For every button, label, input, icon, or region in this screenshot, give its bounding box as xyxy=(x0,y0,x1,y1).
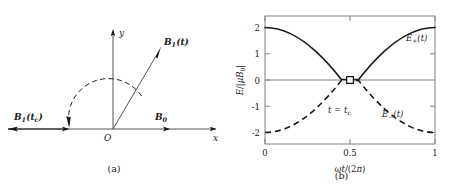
rotation-arc-arrowhead xyxy=(66,116,71,128)
y-axis-name: y xyxy=(118,28,125,38)
curve-E-minus xyxy=(265,80,435,133)
y-tick-label-1: 1 xyxy=(255,49,260,59)
figure-container: x y O B1(tc) B0 B1(t) (a) xyxy=(0,0,455,190)
x-tick-label-0: 0 xyxy=(262,148,267,158)
B1-tc-vector-label: B1(tc) xyxy=(13,112,43,124)
x-axis-name: x xyxy=(213,133,218,143)
curve-label-E-minus: E−(t) xyxy=(381,109,403,120)
panel-b-chart: 2 1 0 -1 -2 0 0.5 1 E+( xyxy=(228,0,455,190)
annotation-t-equals-tc: t = tc xyxy=(328,105,351,116)
x-tick-label-1: 1 xyxy=(432,148,437,158)
y-tick-label-0: 0 xyxy=(255,76,260,86)
origin-label: O xyxy=(104,133,112,143)
y-tick-label-neg1: -1 xyxy=(252,102,260,112)
panel-b: 2 1 0 -1 -2 0 0.5 1 E+( xyxy=(228,0,455,190)
B1-t-vector-arrowhead xyxy=(156,47,162,59)
y-tick-label-neg2: -2 xyxy=(252,128,260,138)
panel-b-caption: (b) xyxy=(228,170,455,181)
B0-vector-label: B0 xyxy=(154,112,168,124)
B1-t-vector-label: B1(t) xyxy=(163,37,189,49)
y-tick-label-2: 2 xyxy=(255,23,260,33)
x-tick-label-0p5: 0.5 xyxy=(343,148,357,158)
panel-a-caption: (a) xyxy=(0,163,228,174)
panel-a: x y O B1(tc) B0 B1(t) (a) xyxy=(0,0,228,190)
degeneracy-marker xyxy=(347,77,354,84)
B1-t-vector-shaft xyxy=(113,51,159,129)
y-axis-title: E/|μB0| xyxy=(235,65,246,97)
panel-a-diagram: x y O B1(tc) B0 B1(t) xyxy=(0,0,228,190)
curve-label-E-plus: E+(t) xyxy=(405,33,427,44)
